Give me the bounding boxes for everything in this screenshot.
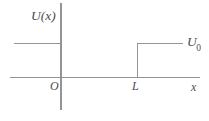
- potential-plateau-left: [14, 43, 61, 45]
- step-height-subscript: 0: [196, 43, 201, 53]
- step-height-label: U0: [187, 35, 202, 52]
- potential-step-riser: [137, 43, 139, 78]
- potential-plateau-right: [137, 43, 183, 45]
- y-axis-line: [60, 3, 62, 110]
- step-position-label: L: [132, 80, 139, 92]
- potential-step-figure: U(x) O L x U0: [0, 0, 209, 121]
- origin-label: O: [50, 80, 59, 92]
- x-axis-line: [10, 77, 200, 79]
- x-axis-label: x: [191, 81, 196, 93]
- y-axis-label: U(x): [31, 9, 56, 23]
